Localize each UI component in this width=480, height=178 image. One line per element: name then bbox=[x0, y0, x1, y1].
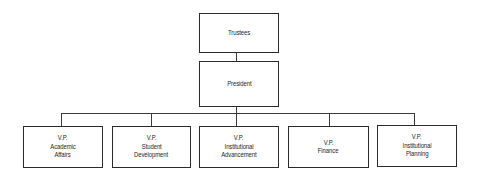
node-label-line1: V.P. bbox=[58, 134, 68, 143]
connector-vp-advancement bbox=[236, 113, 237, 126]
node-label-line2: Institutional bbox=[402, 142, 431, 151]
node-vp-student-development: V.P. Student Development bbox=[112, 126, 191, 168]
node-vp-academic-affairs: V.P. Academic Affairs bbox=[23, 126, 103, 168]
node-label-line3: Advancement bbox=[221, 151, 256, 160]
node-label-line3: Affairs bbox=[55, 151, 71, 160]
node-president: President bbox=[199, 61, 279, 107]
node-vp-institutional-advancement: V.P. Institutional Advancement bbox=[199, 126, 279, 168]
node-label-line1: V.P. bbox=[412, 133, 422, 142]
connector-vp-finance bbox=[329, 113, 330, 126]
node-label: President bbox=[227, 80, 251, 89]
node-vp-finance: V.P. Finance bbox=[288, 126, 369, 168]
connector-vp-academic bbox=[61, 113, 62, 126]
node-trustees: Trustees bbox=[199, 13, 279, 53]
node-label-line2: Academic bbox=[50, 143, 75, 152]
node-label-line1: V.P. bbox=[234, 134, 244, 143]
node-label-line3: Planning bbox=[406, 150, 428, 159]
connector-vp-student bbox=[151, 113, 152, 126]
node-label: Trustees bbox=[228, 29, 250, 38]
node-label-line1: V.P. bbox=[324, 139, 334, 148]
node-label-line2: Student bbox=[142, 143, 162, 152]
node-label-line2: Finance bbox=[318, 147, 339, 156]
connector-trustees-president bbox=[236, 52, 237, 61]
node-vp-institutional-planning: V.P. Institutional Planning bbox=[377, 125, 457, 167]
connector-horizontal-bus bbox=[61, 113, 415, 114]
node-label-line2: Institutional bbox=[224, 143, 253, 152]
node-label-line1: V.P. bbox=[147, 134, 157, 143]
node-label-line3: Development bbox=[134, 151, 168, 160]
